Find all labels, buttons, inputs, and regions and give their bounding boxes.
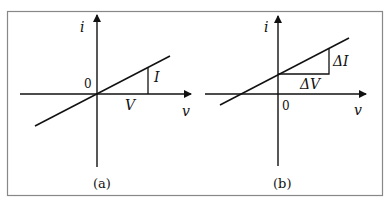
rise-label-a: I <box>153 69 160 85</box>
caption-a: (a) <box>93 176 111 191</box>
origin-label-a: 0 <box>84 77 92 91</box>
caption-b: (b) <box>273 176 291 191</box>
origin-label-b: 0 <box>282 99 290 113</box>
run-label-b: ΔV <box>299 76 322 92</box>
figure-border <box>8 12 383 196</box>
x-axis-label-b: v <box>354 102 362 118</box>
x-axis-label-a: v <box>182 103 190 119</box>
run-label-a: V <box>125 97 137 113</box>
y-axis-label-b: i <box>264 19 268 35</box>
y-axis-label-a: i <box>80 19 84 35</box>
iv-line-a <box>35 56 170 126</box>
iv-characteristic-diagram: i v 0 I V (a) i v 0 ΔI ΔV (b) <box>0 0 387 200</box>
figure: i v 0 I V (a) i v 0 ΔI ΔV (b) <box>0 0 387 200</box>
panel-a: i v 0 I V (a) <box>20 15 191 191</box>
panel-b: i v 0 ΔI ΔV (b) <box>205 16 366 191</box>
rise-label-b: ΔI <box>332 53 349 69</box>
